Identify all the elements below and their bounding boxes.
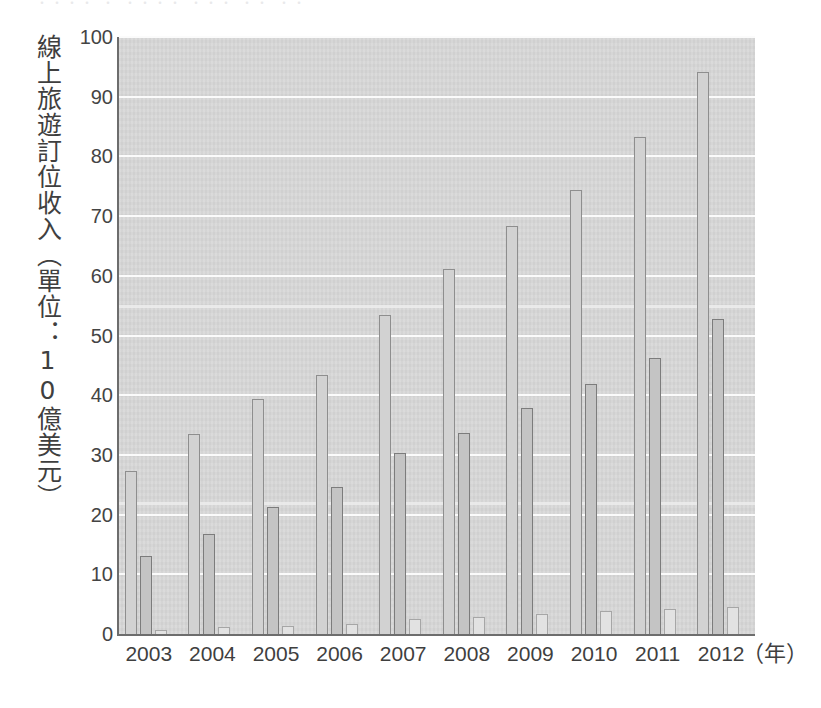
bar — [473, 617, 485, 634]
plot-area — [117, 37, 755, 636]
bar-group — [437, 37, 501, 634]
bar — [140, 556, 152, 634]
bar — [712, 319, 724, 634]
bar — [409, 619, 421, 634]
bar-group — [246, 37, 310, 634]
bar — [600, 611, 612, 634]
x-tick-label: 2011 — [626, 641, 690, 667]
bar-group — [691, 37, 755, 634]
x-tick-label: 2003 — [117, 641, 181, 667]
y-axis-tick-labels: 0102030405060708090100 — [58, 37, 113, 634]
y-tick-label: 0 — [67, 624, 113, 644]
bar-group — [119, 37, 183, 634]
bar — [570, 190, 582, 634]
bar — [218, 627, 230, 634]
y-axis-title: 線上旅遊訂位收入（單位：10億美元） — [28, 34, 62, 594]
x-tick-label: 2006 — [308, 641, 372, 667]
bar-group — [183, 37, 247, 634]
bar — [252, 399, 264, 634]
bar — [664, 609, 676, 634]
x-tick-label: 2005 — [244, 641, 308, 667]
x-tick-label: 2010 — [562, 641, 626, 667]
bar — [188, 434, 200, 634]
y-tick-label: 30 — [67, 445, 113, 465]
bar — [125, 471, 137, 634]
bar — [282, 626, 294, 634]
bar — [203, 534, 215, 634]
bar — [379, 315, 391, 634]
bar-group — [501, 37, 565, 634]
y-tick-label: 100 — [67, 27, 113, 47]
y-tick-label: 60 — [67, 266, 113, 286]
bar — [394, 453, 406, 634]
bar — [727, 607, 739, 634]
bar — [316, 375, 328, 634]
x-tick-label: 2009 — [499, 641, 563, 667]
x-tick-label: 2007 — [371, 641, 435, 667]
bar — [585, 384, 597, 634]
y-tick-label: 20 — [67, 505, 113, 525]
y-tick-label: 40 — [67, 385, 113, 405]
bar — [536, 614, 548, 634]
y-tick-label: 90 — [67, 87, 113, 107]
y-tick-label: 50 — [67, 326, 113, 346]
x-tick-label: 2004 — [181, 641, 245, 667]
bar — [331, 487, 343, 634]
bar — [697, 72, 709, 634]
y-tick-label: 80 — [67, 146, 113, 166]
bar-group — [373, 37, 437, 634]
bar — [346, 624, 358, 634]
x-tick-label: 2008 — [435, 641, 499, 667]
bar — [458, 433, 470, 634]
bar — [443, 269, 455, 634]
bar-chart-figure: 線上旅遊訂位收入（單位：10億美元） 010203040506070809010… — [0, 0, 821, 708]
bar-group — [310, 37, 374, 634]
bar-group — [564, 37, 628, 634]
bar — [634, 137, 646, 634]
bar-group — [628, 37, 692, 634]
bar — [506, 226, 518, 634]
x-axis-unit-label: （年） — [742, 640, 808, 668]
y-tick-label: 10 — [67, 564, 113, 584]
bar — [155, 630, 167, 634]
x-axis-tick-labels: 2003200420052006200720082009201020112012 — [117, 641, 753, 675]
bar — [267, 507, 279, 634]
bar — [649, 358, 661, 634]
bar — [521, 408, 533, 634]
y-tick-label: 70 — [67, 206, 113, 226]
